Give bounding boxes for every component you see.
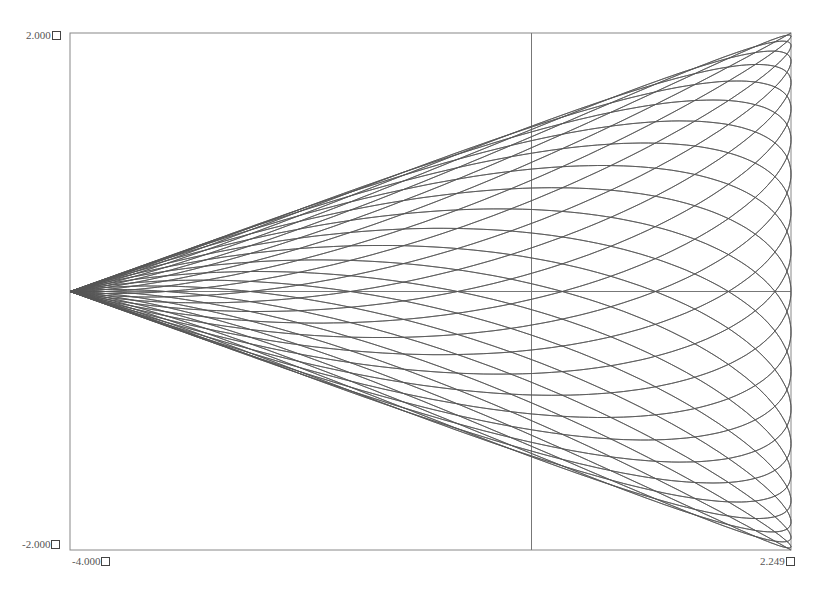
x-min-label: -4.000	[72, 555, 110, 567]
plot-area	[0, 0, 836, 592]
y-min-label: -2.000	[22, 538, 60, 550]
handle-box-icon	[786, 557, 795, 566]
handle-box-icon	[101, 557, 110, 566]
x-max-value: 2.249	[760, 555, 785, 567]
y-max-value: 2.000	[26, 29, 51, 41]
y-min-value: -2.000	[22, 538, 50, 550]
handle-box-icon	[52, 31, 61, 40]
x-min-value: -4.000	[72, 555, 100, 567]
y-max-label: 2.000	[26, 29, 61, 41]
handle-box-icon	[51, 540, 60, 549]
x-max-label: 2.249	[760, 555, 795, 567]
